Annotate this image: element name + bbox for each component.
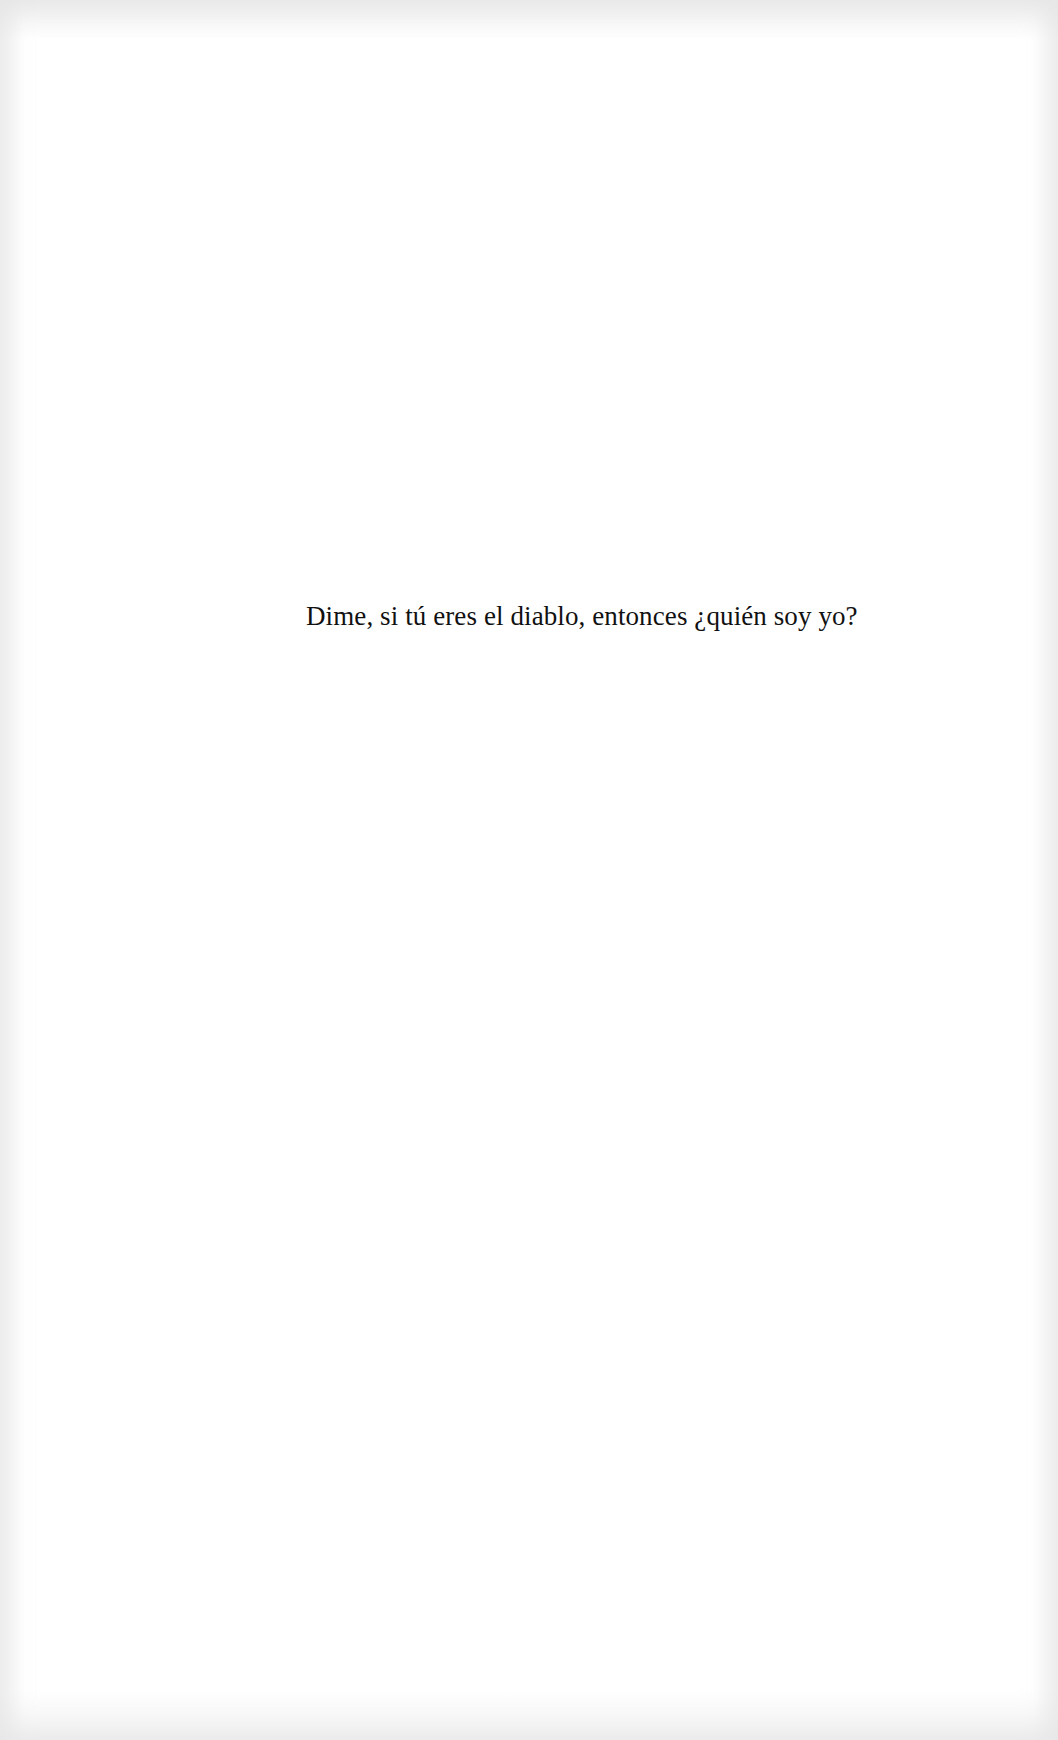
page-edge-shading-top	[0, 0, 1058, 40]
book-page: Dime, si tú eres el diablo, entonces ¿qu…	[0, 0, 1058, 1740]
page-edge-shading-bottom	[0, 1690, 1058, 1740]
page-edge-shading-right	[1034, 0, 1058, 1740]
epigraph-text: Dime, si tú eres el diablo, entonces ¿qu…	[306, 598, 858, 634]
page-edge-shading-left	[0, 0, 24, 1740]
